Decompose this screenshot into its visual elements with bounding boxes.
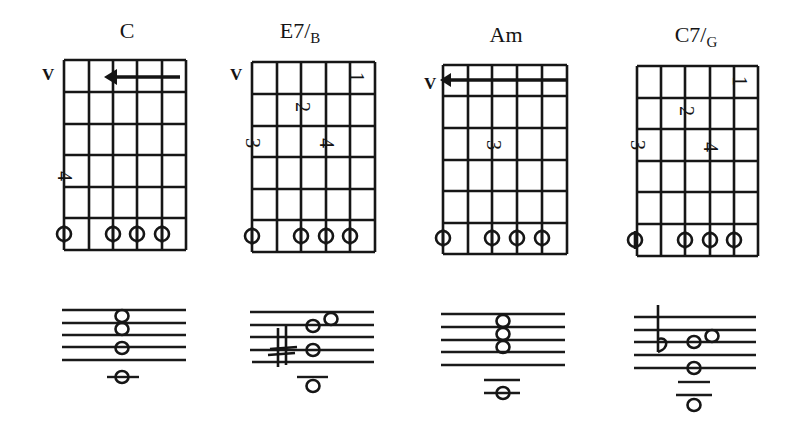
finger-2: 2	[676, 106, 698, 116]
open-strings	[245, 227, 357, 245]
chord-chart: C V 4	[0, 0, 794, 435]
barre-arrow-icon	[440, 73, 567, 87]
finger-1: 1	[346, 72, 368, 82]
chord-title: C7/G	[675, 22, 718, 50]
finger-4: 4	[700, 142, 722, 152]
fretboard-grid	[252, 62, 375, 252]
finger-3: 3	[483, 140, 505, 150]
chord-title: E7/B	[280, 18, 321, 46]
position-label: V	[230, 65, 243, 84]
finger-2: 2	[292, 102, 314, 112]
fretboard-grid	[64, 60, 186, 250]
chord-e7-b: E7/B V 1 2 3 4	[230, 18, 375, 392]
barre-arrow-icon	[104, 69, 180, 85]
fretboard-grid	[443, 65, 567, 254]
chord-c7-g: C7/G 1 2 3 4	[627, 22, 758, 411]
finger-3: 3	[627, 140, 649, 150]
chord-title: C	[120, 18, 135, 43]
position-label: V	[42, 65, 55, 84]
open-strings	[628, 231, 741, 249]
finger-3: 3	[242, 138, 264, 148]
fretboard-grid	[637, 66, 758, 256]
open-strings	[436, 229, 549, 247]
finger-4: 4	[54, 171, 76, 181]
finger-1: 1	[729, 76, 751, 86]
chord-c: C V 4	[42, 18, 186, 383]
finger-4: 4	[316, 138, 338, 148]
position-label: V	[424, 74, 437, 93]
chord-title: Am	[490, 22, 523, 47]
music-staff	[634, 317, 756, 395]
chord-am: Am V 3	[424, 22, 567, 399]
flat-icon	[658, 305, 666, 352]
open-strings	[57, 225, 169, 243]
